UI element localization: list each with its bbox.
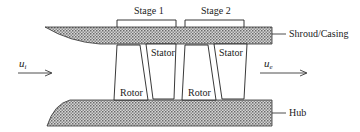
shroud-label: Shroud/Casing — [289, 28, 348, 39]
rotor-1-label: Rotor — [120, 87, 143, 98]
stator-1-label: Stator — [151, 47, 176, 58]
hub — [47, 100, 272, 126]
stage-1-label: Stage 1 — [134, 5, 164, 16]
turbomachine-diagram: Stage 1 Stage 2 Rotor Stator Rotor Stato… — [0, 0, 360, 132]
shroud-casing — [45, 27, 272, 44]
inlet-velocity-label: ui — [19, 57, 27, 71]
hub-label: Hub — [289, 107, 306, 118]
exit-velocity-label: ue — [264, 57, 273, 71]
stage-2-bracket — [185, 20, 244, 27]
stage-2-label: Stage 2 — [201, 5, 231, 16]
stator-2-label: Stator — [219, 47, 244, 58]
rotor-2-label: Rotor — [188, 87, 211, 98]
stage-1-bracket — [117, 20, 176, 27]
